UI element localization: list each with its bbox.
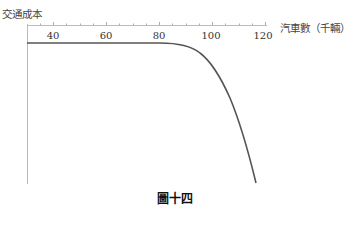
figure-caption: 圖十四 bbox=[157, 189, 193, 206]
x-tick-60: 60 bbox=[100, 30, 113, 41]
x-tick-80: 80 bbox=[153, 30, 166, 41]
cost-curve bbox=[27, 43, 256, 183]
x-tick-40: 40 bbox=[47, 30, 60, 41]
x-tick-100: 100 bbox=[201, 30, 220, 41]
x-axis-ticks bbox=[41, 22, 266, 25]
x-tick-120: 120 bbox=[253, 30, 272, 41]
